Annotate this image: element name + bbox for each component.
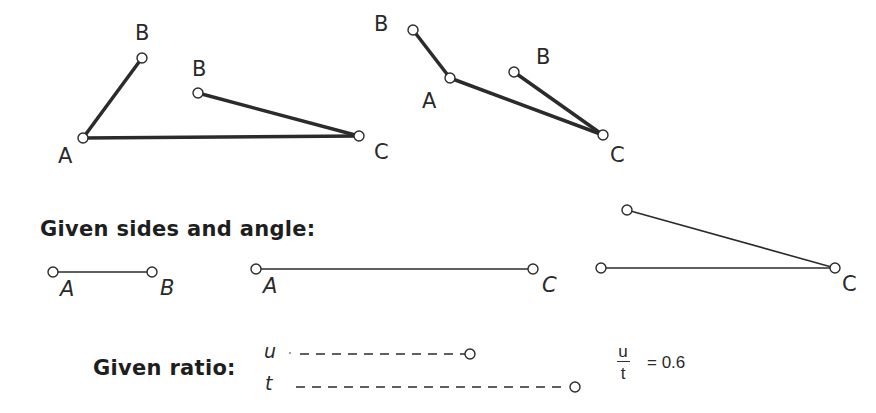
given-ac-point-c[interactable]	[528, 264, 538, 274]
fraction-numerator: u	[616, 342, 630, 362]
given-ac-label-c: C	[542, 275, 557, 296]
fig1-label-a: A	[58, 146, 72, 167]
ratio-t-label: t	[265, 374, 272, 393]
segment-a-c	[83, 136, 359, 138]
given-angle-vertex-c[interactable]	[830, 263, 840, 273]
point-c[interactable]	[598, 130, 608, 140]
point-c[interactable]	[354, 131, 364, 141]
point-a[interactable]	[78, 133, 88, 143]
given-ab-point-a[interactable]	[48, 267, 58, 277]
ratio-u-label: u	[264, 342, 276, 361]
fig2-label-a: A	[422, 91, 436, 112]
ratio-value: = 0.6	[647, 353, 685, 373]
given-angle-label-c: C	[842, 274, 857, 295]
point-b-mid[interactable]	[509, 67, 519, 77]
segment-b-c	[514, 72, 603, 135]
given-sides-figures	[48, 205, 840, 277]
figure-1	[78, 53, 364, 143]
point-a[interactable]	[445, 73, 455, 83]
figure-2	[408, 25, 608, 140]
segment-b-a	[413, 30, 450, 78]
fig2-label-b-top: B	[374, 14, 388, 35]
ratio-t-end-point[interactable]	[570, 382, 580, 392]
segment-a-c	[450, 78, 603, 135]
given-ab-label-a: A	[60, 279, 74, 300]
given-sides-heading: Given sides and angle:	[40, 219, 315, 240]
point-b-top[interactable]	[408, 25, 418, 35]
given-ab-label-b: B	[160, 278, 174, 299]
given-ab-point-b[interactable]	[147, 267, 157, 277]
point-b-mid[interactable]	[193, 88, 203, 98]
given-angle-ray-upper-end[interactable]	[622, 205, 632, 215]
fig1-label-c: C	[374, 142, 389, 163]
given-angle-ray-upper	[627, 210, 835, 268]
fig1-label-b-top: B	[135, 23, 149, 44]
given-ratio-heading: Given ratio:	[93, 358, 236, 379]
given-ac-point-a[interactable]	[251, 264, 261, 274]
given-ac-label-a: A	[263, 276, 277, 297]
given-ratio-figures	[289, 349, 580, 392]
fraction-denominator: t	[616, 364, 630, 384]
ratio-u-end-point[interactable]	[465, 349, 475, 359]
fraction-bar	[617, 361, 630, 362]
segment-a-b	[83, 58, 142, 138]
ratio-u-dot	[289, 352, 291, 354]
given-angle-ray-lower-end[interactable]	[596, 263, 606, 273]
point-b-top[interactable]	[137, 53, 147, 63]
fig2-label-c: C	[610, 145, 625, 166]
fig1-label-b-mid: B	[192, 59, 206, 80]
segment-b-c	[198, 93, 359, 136]
fig2-label-b-mid: B	[536, 47, 550, 68]
diagram-canvas	[0, 0, 876, 413]
